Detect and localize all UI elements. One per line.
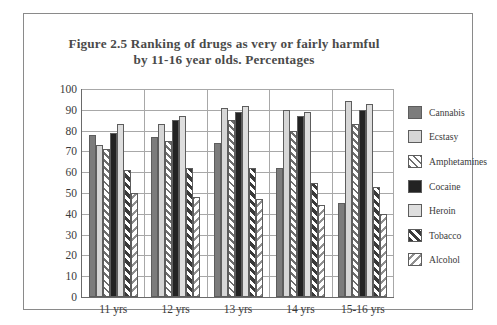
y-axis-tick-20: 20 bbox=[66, 249, 78, 261]
y-axis-tick-10: 10 bbox=[66, 270, 78, 282]
bar-cannabis-13-yrs bbox=[214, 143, 221, 297]
bar-alcohol-12-yrs bbox=[193, 197, 200, 297]
legend-item-ecstasy[interactable]: Ecstasy bbox=[408, 125, 497, 150]
chart-legend: CannabisEcstasyAmphetaminesCocaineHeroin… bbox=[408, 100, 497, 272]
y-axis-tick-60: 60 bbox=[66, 166, 78, 178]
legend-label-heroin: Heroin bbox=[429, 205, 456, 216]
figure-frame: Figure 2.5 Ranking of drugs as very or f… bbox=[23, 13, 473, 310]
x-axis-tick-14-yrs: 14 yrs bbox=[286, 303, 314, 315]
legend-swatch-amphetamines-icon bbox=[408, 155, 422, 168]
bars bbox=[338, 89, 387, 297]
legend-item-cannabis[interactable]: Cannabis bbox=[408, 100, 497, 125]
bar-groups: 11 yrs12 yrs13 yrs14 yrs15-16 yrs bbox=[82, 89, 394, 297]
legend-item-heroin[interactable]: Heroin bbox=[408, 198, 497, 223]
legend-label-cannabis: Cannabis bbox=[429, 107, 465, 118]
y-axis-tick-80: 80 bbox=[66, 125, 78, 137]
legend-swatch-tobacco-icon bbox=[408, 229, 422, 242]
bar-group-13-yrs: 13 yrs bbox=[207, 89, 269, 297]
bar-heroin-15-16-yrs bbox=[366, 104, 373, 297]
legend-item-alcohol[interactable]: Alcohol bbox=[408, 248, 497, 273]
bar-tobacco-15-16-yrs bbox=[373, 187, 380, 297]
x-axis-tick-13-yrs: 13 yrs bbox=[224, 303, 252, 315]
chart-title-line-1: Figure 2.5 Ranking of drugs as very or f… bbox=[59, 36, 389, 52]
y-axis-tick-50: 50 bbox=[66, 187, 78, 199]
bar-cocaine-12-yrs bbox=[172, 120, 179, 297]
bars bbox=[276, 89, 325, 297]
y-axis-tick-40: 40 bbox=[66, 208, 78, 220]
legend-swatch-ecstasy-icon bbox=[408, 130, 422, 143]
legend-swatch-heroin-icon bbox=[408, 204, 422, 217]
bar-alcohol-11-yrs bbox=[131, 193, 138, 297]
legend-label-alcohol: Alcohol bbox=[429, 254, 460, 265]
bar-ecstasy-14-yrs bbox=[283, 110, 290, 297]
bar-cocaine-11-yrs bbox=[110, 133, 117, 297]
y-axis-tick-70: 70 bbox=[66, 145, 78, 157]
bar-group-14-yrs: 14 yrs bbox=[269, 89, 331, 297]
legend-swatch-alcohol-icon bbox=[408, 253, 422, 266]
legend-label-ecstasy: Ecstasy bbox=[429, 131, 458, 142]
y-axis-tick-100: 100 bbox=[60, 83, 77, 95]
bar-cocaine-14-yrs bbox=[297, 116, 304, 297]
bar-amphetamines-11-yrs bbox=[103, 149, 110, 297]
bar-tobacco-13-yrs bbox=[249, 168, 256, 297]
bar-heroin-12-yrs bbox=[179, 116, 186, 297]
bar-amphetamines-14-yrs bbox=[290, 131, 297, 297]
bar-tobacco-11-yrs bbox=[124, 170, 131, 297]
bar-amphetamines-15-16-yrs bbox=[352, 124, 359, 297]
legend-item-amphetamines[interactable]: Amphetamines bbox=[408, 149, 497, 174]
bar-alcohol-14-yrs bbox=[318, 205, 325, 297]
legend-swatch-cocaine-icon bbox=[408, 180, 422, 193]
bar-alcohol-15-16-yrs bbox=[380, 214, 387, 297]
bars bbox=[151, 89, 200, 297]
y-axis-tick-30: 30 bbox=[66, 229, 78, 241]
chart-title-line-2: by 11-16 year olds. Percentages bbox=[59, 52, 389, 68]
bar-cannabis-15-16-yrs bbox=[338, 203, 345, 297]
bar-cannabis-12-yrs bbox=[151, 137, 158, 297]
bar-group-12-yrs: 12 yrs bbox=[144, 89, 206, 297]
bar-amphetamines-13-yrs bbox=[228, 120, 235, 297]
bar-cocaine-15-16-yrs bbox=[359, 110, 366, 297]
legend-label-amphetamines: Amphetamines bbox=[429, 156, 487, 167]
legend-label-tobacco: Tobacco bbox=[429, 230, 461, 241]
legend-item-tobacco[interactable]: Tobacco bbox=[408, 223, 497, 248]
bar-ecstasy-11-yrs bbox=[96, 145, 103, 297]
bars bbox=[89, 89, 138, 297]
bar-group-15-16-yrs: 15-16 yrs bbox=[332, 89, 394, 297]
legend-item-cocaine[interactable]: Cocaine bbox=[408, 174, 497, 199]
bar-tobacco-12-yrs bbox=[186, 168, 193, 297]
bar-cannabis-14-yrs bbox=[276, 168, 283, 297]
bars bbox=[214, 89, 263, 297]
x-axis-tick-12-yrs: 12 yrs bbox=[161, 303, 189, 315]
y-axis-tick-0: 0 bbox=[71, 291, 77, 303]
bar-ecstasy-13-yrs bbox=[221, 108, 228, 297]
bar-ecstasy-12-yrs bbox=[158, 124, 165, 297]
bar-cocaine-13-yrs bbox=[235, 112, 242, 297]
plot-area: 1009080706050403020100 11 yrs12 yrs13 yr… bbox=[81, 89, 394, 298]
x-axis-tick-11-yrs: 11 yrs bbox=[99, 303, 127, 315]
bar-tobacco-14-yrs bbox=[311, 183, 318, 297]
bar-group-11-yrs: 11 yrs bbox=[82, 89, 144, 297]
bar-heroin-11-yrs bbox=[117, 124, 124, 297]
bar-amphetamines-12-yrs bbox=[165, 141, 172, 297]
chart-title: Figure 2.5 Ranking of drugs as very or f… bbox=[59, 36, 389, 68]
x-axis-tick-15-16-yrs: 15-16 yrs bbox=[341, 303, 385, 315]
y-axis-tick-90: 90 bbox=[66, 104, 78, 116]
bar-heroin-13-yrs bbox=[242, 106, 249, 297]
bar-cannabis-11-yrs bbox=[89, 135, 96, 297]
bar-heroin-14-yrs bbox=[304, 112, 311, 297]
legend-label-cocaine: Cocaine bbox=[429, 181, 460, 192]
bar-ecstasy-15-16-yrs bbox=[345, 101, 352, 297]
legend-swatch-cannabis-icon bbox=[408, 106, 422, 119]
bar-alcohol-13-yrs bbox=[256, 199, 263, 297]
